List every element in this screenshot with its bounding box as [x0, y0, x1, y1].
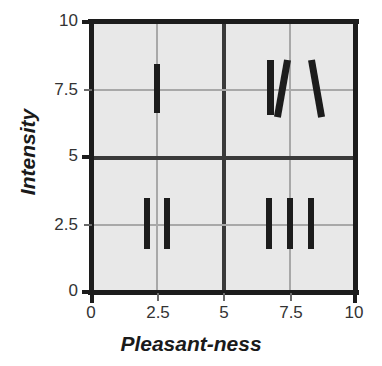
x-tick-label-2.5: 2.5 [136, 303, 180, 323]
tally-mark [164, 198, 170, 249]
tally-mark [144, 198, 150, 249]
x-tick-7.5 [290, 293, 292, 301]
x-tick-label-7.5: 7.5 [269, 303, 313, 323]
plot-area [92, 22, 355, 293]
plot-frame-top [88, 19, 359, 24]
plot-frame-right [353, 19, 358, 295]
y-tick-label-7.5: 7.5 [34, 80, 78, 100]
x-axis-title: Pleasant-ness [0, 332, 382, 356]
y-tick-label-0: 0 [34, 281, 78, 301]
tally-mark [287, 198, 293, 249]
x-tick-0 [90, 293, 94, 303]
y-tick-0 [82, 290, 93, 294]
tally-mark [267, 60, 274, 115]
tally-mark [154, 64, 160, 113]
y-tick-7.5 [84, 89, 92, 91]
tally-mark [308, 198, 314, 249]
y-tick-label-5: 5 [34, 146, 78, 166]
y-tick-5 [82, 155, 93, 159]
y-tick-label-2.5: 2.5 [34, 215, 78, 235]
x-tick-5 [223, 293, 225, 301]
tally-mark [266, 198, 272, 249]
x-tick-label-5: 5 [202, 303, 246, 323]
gridline-y-5 [92, 156, 355, 160]
x-tick-label-10: 10 [332, 303, 376, 323]
x-tick-2.5 [157, 293, 159, 301]
x-tick-label-0: 0 [69, 303, 113, 323]
x-tick-10 [353, 293, 357, 303]
y-tick-2.5 [84, 224, 92, 226]
tally-quadrant-chart: Intensity [0, 0, 382, 366]
y-tick-10 [82, 20, 93, 24]
gridline-y-2.5 [92, 224, 355, 226]
y-tick-label-10: 10 [34, 11, 78, 31]
